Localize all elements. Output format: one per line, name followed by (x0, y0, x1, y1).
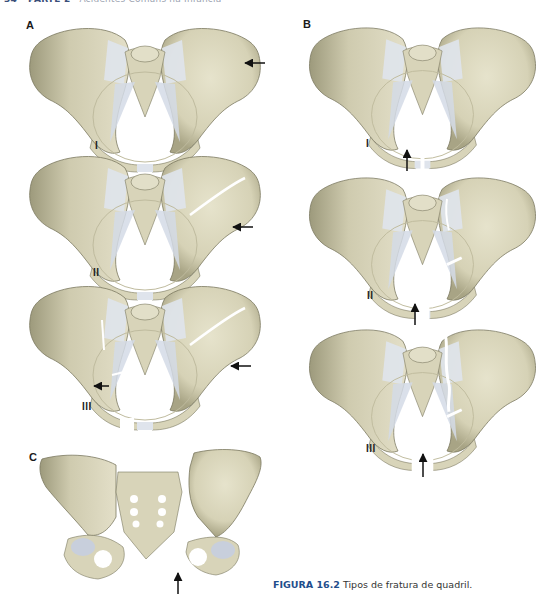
running-head: 34 PARTE 2 Acidentes Comuns na Infância (4, 0, 221, 6)
arrow-up-icon (418, 452, 428, 478)
part-label: PARTE 2 (28, 0, 70, 4)
arrow-left-icon (230, 222, 254, 232)
roman-label-a2: II (93, 267, 100, 278)
figure-number: FIGURA 16.2 (273, 579, 340, 590)
panel-label-c: C (29, 451, 37, 463)
arrow-left-icon (242, 58, 266, 68)
arrow-up-icon (173, 571, 183, 595)
roman-label-b2: II (367, 290, 374, 301)
page-number: 34 (4, 0, 17, 4)
roman-label-b1: I (366, 138, 369, 149)
arrow-left-icon (228, 361, 252, 371)
pelvis-figure-b1 (300, 20, 545, 175)
pelvis-figure-c (38, 447, 268, 587)
caption-text: Tipos de fratura de quadril. (343, 579, 472, 590)
figure-caption: FIGURA 16.2Tipos de fratura de quadril. (273, 579, 472, 590)
pelvis-figure-b2 (300, 170, 545, 325)
arrow-left-icon (92, 381, 110, 391)
roman-label-b3: III (366, 443, 376, 454)
section-title: Acidentes Comuns na Infância (79, 0, 221, 4)
arrow-up-icon (402, 148, 412, 172)
pelvis-figure-a3 (20, 280, 270, 435)
roman-label-a3: III (82, 401, 92, 412)
